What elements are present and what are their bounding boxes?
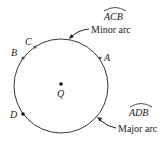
- major-arc-name: ADB: [128, 107, 148, 118]
- point-d: [21, 112, 25, 116]
- point-c: [33, 45, 36, 48]
- minor-arc-name: ACB: [103, 11, 123, 22]
- circle-arc-diagram: A B C D Q ACB Minor arc ADB Major arc: [0, 0, 167, 144]
- label-q: Q: [57, 88, 65, 99]
- minor-arc-caption: Minor arc: [91, 24, 131, 35]
- minor-arc-leader: [71, 29, 89, 37]
- major-arc-caption: Major arc: [118, 123, 158, 134]
- label-a: A: [103, 52, 111, 63]
- point-a: [98, 56, 101, 59]
- point-q-center: [59, 82, 63, 86]
- label-c: C: [25, 36, 32, 47]
- label-d: D: [9, 109, 18, 120]
- circle: [14, 39, 108, 133]
- major-arc-leader: [100, 120, 116, 128]
- label-b: B: [11, 47, 17, 58]
- point-b: [21, 56, 24, 59]
